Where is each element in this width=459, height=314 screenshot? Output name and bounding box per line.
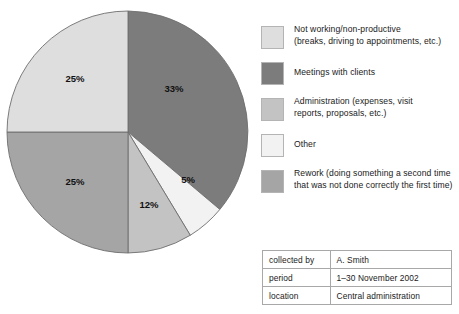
- metadata-table: collected byA. Smithperiod1–30 November …: [262, 250, 452, 305]
- legend-label-not-working-non-productive: Not working/non-productive (breaks, driv…: [294, 24, 441, 47]
- pie-slice-label-not-working-non-productive: 25%: [65, 73, 85, 84]
- legend-item-meetings-with-clients[interactable]: Meetings with clients: [261, 60, 457, 85]
- table-row: collected byA. Smith: [263, 251, 452, 269]
- table-cell-value-location: Central administration: [330, 287, 451, 305]
- legend-swatch-not-working-non-productive: [261, 26, 284, 49]
- legend-item-other[interactable]: Other: [261, 132, 457, 157]
- table-row: period1–30 November 2002: [263, 269, 452, 287]
- legend-label-meetings-with-clients: Meetings with clients: [294, 60, 375, 79]
- legend-item-not-working-non-productive[interactable]: Not working/non-productive (breaks, driv…: [261, 24, 457, 49]
- pie-slice-label-meetings-with-clients: 33%: [164, 83, 184, 94]
- legend-label-administration: Administration (expenses, visit reports,…: [294, 96, 413, 119]
- pie-chart-svg: 33%5%12%25%25%: [4, 8, 252, 256]
- legend-item-rework[interactable]: Rework (doing something a second time th…: [261, 168, 457, 193]
- table-cell-value-collected-by: A. Smith: [330, 251, 451, 269]
- legend-item-administration[interactable]: Administration (expenses, visit reports,…: [261, 96, 457, 121]
- legend-label-rework: Rework (doing something a second time th…: [294, 168, 452, 191]
- pie-slice-label-other: 5%: [181, 174, 195, 185]
- legend-swatch-meetings-with-clients: [261, 62, 284, 85]
- pie-slice-rework[interactable]: [7, 132, 128, 253]
- pie-slice-label-rework: 25%: [65, 176, 85, 187]
- pie-slice-not-working-non-productive[interactable]: [7, 11, 128, 132]
- chart-legend: Not working/non-productive (breaks, driv…: [261, 24, 457, 204]
- legend-label-other: Other: [294, 132, 316, 151]
- table-cell-value-period: 1–30 November 2002: [330, 269, 451, 287]
- legend-swatch-other: [261, 134, 284, 157]
- table-cell-key-location: location: [263, 287, 331, 305]
- table-cell-key-collected-by: collected by: [263, 251, 331, 269]
- table-row: locationCentral administration: [263, 287, 452, 305]
- table-cell-key-period: period: [263, 269, 331, 287]
- legend-swatch-administration: [261, 98, 284, 121]
- pie-slice-label-administration: 12%: [139, 199, 159, 210]
- legend-swatch-rework: [261, 170, 284, 193]
- pie-chart: 33%5%12%25%25%: [4, 8, 252, 256]
